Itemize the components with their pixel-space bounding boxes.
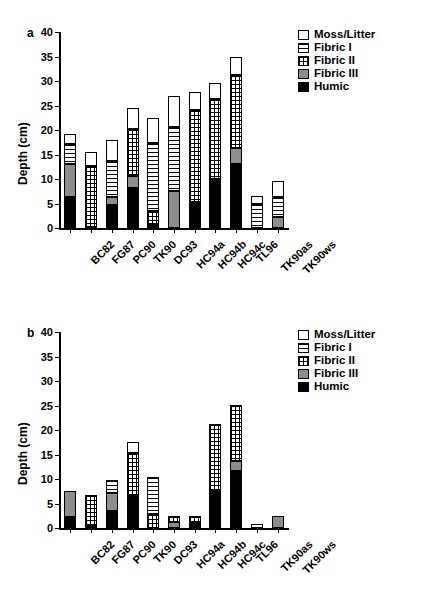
x-axis-tick — [278, 528, 279, 533]
y-axis-tick — [55, 479, 60, 480]
y-axis-tick — [55, 32, 60, 33]
bar-segment — [209, 179, 221, 228]
legend-item-moss-litter: Moss/Litter — [298, 28, 375, 41]
bar-HC94b — [189, 32, 201, 228]
legend-swatch-icon — [298, 382, 309, 392]
y-axis-tick-label: 15 — [41, 149, 53, 160]
bar-segment — [106, 205, 118, 228]
bar-segment — [147, 118, 159, 143]
bar-segment — [64, 134, 76, 144]
x-axis-label-FG87: FG87 — [109, 538, 137, 566]
panel-a-legend: Moss/LitterFibric IFibric IIFibric IIIHu… — [298, 28, 375, 93]
legend-label: Fibric I — [314, 342, 352, 354]
bar-segment — [85, 166, 97, 226]
legend-swatch-icon — [298, 30, 309, 40]
bar-segment — [168, 127, 180, 191]
x-axis-tick — [215, 228, 216, 233]
y-axis-tick-label: 25 — [41, 100, 53, 111]
bar-segment — [64, 491, 76, 517]
y-axis-tick-label: 0 — [47, 223, 53, 234]
legend-swatch-icon — [298, 330, 309, 340]
bar-segment — [230, 471, 242, 528]
bar-TK90as — [251, 332, 263, 528]
y-axis-tick-label: 0 — [47, 523, 53, 534]
legend-label: Fibric I — [314, 42, 352, 54]
bar-TK90as — [251, 32, 263, 228]
legend-label: Fibric III — [314, 68, 358, 80]
bar-segment — [127, 176, 139, 188]
x-axis-tick — [153, 228, 154, 233]
legend-item-fibric-iii: Fibric III — [298, 367, 375, 380]
bar-segment — [64, 144, 76, 165]
bar-segment — [189, 516, 201, 523]
y-axis-tick-label: 35 — [41, 351, 53, 362]
y-axis-tick — [55, 357, 60, 358]
x-axis-tick — [174, 528, 175, 533]
panel-b-y-axis-label: Depth (cm) — [16, 422, 30, 485]
bar-TL96 — [230, 32, 242, 228]
x-axis-tick — [133, 228, 134, 233]
y-axis-tick — [55, 528, 60, 529]
bar-segment — [106, 480, 118, 493]
bar-HC94a — [168, 32, 180, 228]
bar-segment — [127, 129, 139, 176]
x-axis-tick — [195, 228, 196, 233]
legend-swatch-icon — [298, 356, 309, 366]
bar-segment — [127, 453, 139, 496]
bar-segment — [168, 191, 180, 228]
y-axis-tick — [55, 228, 60, 229]
bar-segment — [106, 140, 118, 161]
bar-segment — [127, 442, 139, 453]
bar-segment — [85, 525, 97, 528]
bar-BC82 — [64, 332, 76, 528]
bar-segment — [209, 491, 221, 528]
bar-HC94b — [189, 332, 201, 528]
bar-segment — [85, 495, 97, 524]
y-axis-tick-label: 20 — [41, 425, 53, 436]
bar-segment — [230, 75, 242, 149]
legend-label: Fibric III — [314, 368, 358, 380]
x-axis-tick — [112, 528, 113, 533]
bar-segment — [168, 96, 180, 127]
legend-item-fibric-iii: Fibric III — [298, 67, 375, 80]
legend-item-moss-litter: Moss/Litter — [298, 328, 375, 341]
x-axis-tick — [257, 528, 258, 533]
x-axis-tick — [70, 528, 71, 533]
x-axis-tick — [153, 528, 154, 533]
legend-item-fibric-ii: Fibric II — [298, 354, 375, 367]
y-axis-tick-label: 10 — [41, 174, 53, 185]
bar-BC82 — [64, 32, 76, 228]
bar-segment — [127, 188, 139, 228]
bar-HC94c — [209, 332, 221, 528]
bar-segment — [147, 143, 159, 212]
bar-TL96 — [230, 332, 242, 528]
x-axis-tick — [257, 228, 258, 233]
legend-swatch-icon — [298, 69, 309, 79]
bar-segment — [147, 224, 159, 228]
bar-segment — [272, 181, 284, 196]
bar-segment — [230, 164, 242, 228]
bar-segment — [64, 164, 76, 197]
bar-TK90 — [127, 332, 139, 528]
bar-segment — [209, 83, 221, 99]
bar-segment — [106, 511, 118, 528]
y-axis-tick — [55, 81, 60, 82]
y-axis-tick — [55, 57, 60, 58]
bar-PC90 — [106, 332, 118, 528]
x-axis-label-FG87: FG87 — [109, 238, 137, 266]
bar-segment — [147, 514, 159, 528]
y-axis-tick — [55, 179, 60, 180]
legend-item-fibric-i: Fibric I — [298, 41, 375, 54]
panel-a: a Depth (cm) 0510152025303540BC82FG87PC9… — [0, 0, 440, 300]
legend-label: Moss/Litter — [314, 329, 375, 341]
bar-segment — [147, 477, 159, 514]
panel-a-letter: a — [27, 26, 34, 40]
x-axis-label-PC90: PC90 — [130, 238, 158, 266]
y-axis-tick-label: 40 — [41, 327, 53, 338]
bar-segment — [127, 108, 139, 129]
panel-b-plot-area: 0510152025303540BC82FG87PC90TK90DC93HC94… — [60, 332, 288, 528]
bar-segment — [189, 92, 201, 110]
y-axis-tick-label: 35 — [41, 51, 53, 62]
x-axis-tick — [278, 228, 279, 233]
bar-segment — [64, 517, 76, 528]
